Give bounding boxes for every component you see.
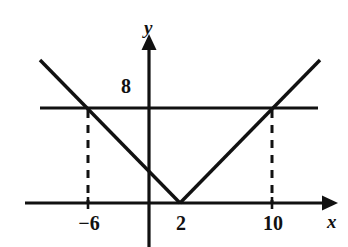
graph-canvas	[0, 0, 348, 247]
y-axis	[142, 34, 157, 247]
x-axis-arrowhead	[322, 196, 338, 211]
x-axis-label: x	[327, 212, 337, 231]
abs-left-ray	[40, 60, 180, 203]
abs-right-ray	[180, 60, 320, 203]
y-axis-label: y	[144, 18, 152, 37]
x-tick-label-minus6: −6	[68, 213, 110, 233]
graph-figure: y x 8 −6 2 10	[0, 0, 348, 247]
y-value-label-8: 8	[112, 76, 140, 96]
x-tick-label-10: 10	[250, 213, 296, 233]
x-tick-label-2: 2	[162, 213, 200, 233]
